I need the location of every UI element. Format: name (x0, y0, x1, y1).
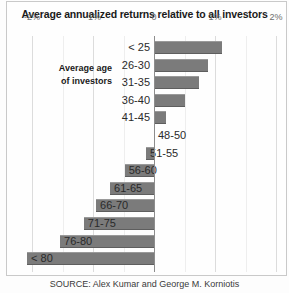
category-label: 31-35 (122, 75, 150, 90)
chart-row: 56-60 (7, 162, 286, 180)
bar (154, 76, 199, 89)
bar (154, 59, 208, 72)
chart-row: 71-75 (7, 215, 286, 233)
bar (154, 41, 222, 54)
source-note: SOURCE: Alex Kumar and George M. Korniot… (0, 279, 289, 289)
chart-row: 48-50 (7, 127, 286, 145)
chart-screenshot: Average annualized returns relative to a… (0, 0, 289, 293)
zero-axis-line (154, 36, 155, 272)
category-label: 36-40 (122, 93, 150, 108)
category-label: 66-70 (100, 198, 128, 213)
x-tick-label: 2% (269, 12, 282, 22)
axis-caption-line2: of investors (26, 75, 112, 88)
chart-title: Average annualized returns relative to a… (8, 8, 281, 20)
category-label: < 80 (31, 251, 53, 266)
chart-row: 51-55 (7, 145, 286, 163)
category-label: < 25 (128, 40, 150, 55)
chart-row: 66-70 (7, 197, 286, 215)
x-tick-label: -1% (85, 12, 101, 22)
chart-row: 36-40 (7, 92, 286, 110)
chart-row: 61-65 (7, 180, 286, 198)
category-label: 41-45 (122, 110, 150, 125)
category-label: 61-65 (114, 181, 142, 196)
axis-caption-line1: Average age (26, 62, 112, 75)
chart-row: 41-45 (7, 109, 286, 127)
axis-caption: Average age of investors (26, 62, 112, 88)
category-label: 71-75 (88, 216, 116, 231)
x-tick-label: 0 (151, 12, 156, 22)
bar (154, 94, 185, 107)
category-label: 48-50 (158, 128, 186, 143)
chart-row: < 80 (7, 250, 286, 268)
category-label: 76-80 (64, 234, 92, 249)
category-label: 56-60 (129, 163, 157, 178)
x-tick-label: 1% (208, 12, 221, 22)
chart-row: < 25 (7, 39, 286, 57)
x-tick-label: -2% (24, 12, 40, 22)
category-label: 26-30 (122, 58, 150, 73)
chart-row: 76-80 (7, 233, 286, 251)
bar (154, 111, 166, 124)
